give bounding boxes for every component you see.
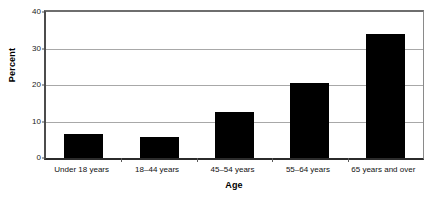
plot-area: 010203040 [44, 10, 424, 160]
bar [366, 34, 405, 158]
y-tick-label: 20 [32, 81, 41, 89]
x-axis-title: Age [44, 180, 424, 190]
bars-group [46, 12, 423, 158]
x-tick-mark [348, 158, 349, 162]
clipped-header-text [300, 0, 430, 3]
x-tick-mark [272, 158, 273, 162]
bar-chart: Percent 010203040 Under 18 years18–44 ye… [0, 0, 438, 198]
y-tick-label: 10 [32, 118, 41, 126]
x-axis-label: 45–54 years [210, 165, 254, 175]
x-axis-label: 18–44 years [135, 165, 179, 175]
x-axis-label: 65 years and over [351, 165, 415, 175]
bar [290, 83, 329, 158]
bar [215, 112, 254, 158]
x-axis-labels: Under 18 years18–44 years45–54 years55–6… [44, 165, 424, 179]
y-axis-title: Percent [7, 35, 17, 95]
y-tick-label: 40 [32, 8, 41, 16]
x-tick-mark [121, 158, 122, 162]
bar [140, 137, 179, 158]
y-tick-label: 30 [32, 45, 41, 53]
x-tick-mark [197, 158, 198, 162]
bar [64, 134, 103, 158]
y-tick-label: 0 [37, 154, 41, 162]
x-axis-label: Under 18 years [54, 165, 109, 175]
x-axis-label: 55–64 years [286, 165, 330, 175]
